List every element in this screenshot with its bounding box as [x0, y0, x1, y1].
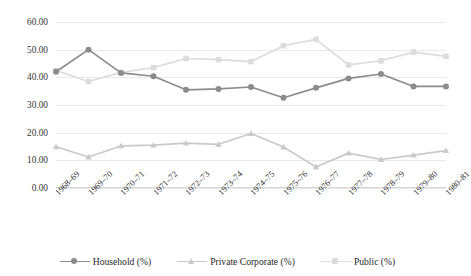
data-point [346, 62, 352, 68]
x-tick-label: 1980–81 [443, 169, 471, 197]
y-tick-label: 60.00 [27, 17, 48, 27]
legend-item[interactable]: Household (%) [60, 256, 151, 267]
y-tick-label: 50.00 [27, 45, 48, 55]
series-household [53, 47, 449, 101]
data-point [53, 69, 59, 75]
chart-legend: Household (%)Private Corporate (%)Public… [0, 250, 455, 272]
x-axis-tick-labels: 1968–691969–701970–711971–721972–731973–… [56, 190, 446, 248]
data-point [151, 65, 157, 71]
data-point [151, 73, 157, 79]
data-point [346, 75, 352, 81]
series-private-corporate [53, 130, 449, 169]
data-point [183, 56, 189, 62]
data-point [411, 49, 417, 55]
data-point [281, 95, 287, 101]
data-point [86, 79, 92, 85]
data-point [313, 85, 319, 91]
data-point [248, 84, 254, 90]
data-point [443, 83, 449, 89]
legend-item[interactable]: Private Corporate (%) [177, 256, 295, 267]
series-line [56, 134, 446, 167]
data-point [216, 86, 222, 92]
data-point [411, 83, 417, 89]
legend-label: Household (%) [93, 256, 151, 267]
legend-swatch-icon [60, 256, 90, 266]
data-point [443, 54, 449, 60]
data-point [281, 43, 287, 49]
y-tick-label: 10.00 [27, 155, 48, 165]
legend-label: Public (%) [354, 256, 395, 267]
data-point [313, 37, 319, 43]
data-point [183, 87, 189, 93]
data-point [248, 59, 254, 65]
data-point [86, 47, 92, 53]
data-point [378, 58, 384, 64]
plot-area [56, 22, 446, 188]
y-tick-label: 0.00 [32, 183, 48, 193]
y-tick-label: 20.00 [27, 128, 48, 138]
data-point [378, 71, 384, 77]
data-point [53, 144, 59, 150]
legend-swatch-icon [177, 256, 207, 266]
data-point [248, 130, 254, 136]
y-tick-label: 30.00 [27, 100, 48, 110]
data-point [216, 57, 222, 63]
data-point [118, 70, 124, 76]
y-tick-label: 40.00 [27, 72, 48, 82]
legend-swatch-icon [321, 256, 351, 266]
series-layer [56, 22, 446, 188]
legend-label: Private Corporate (%) [210, 256, 295, 267]
legend-item[interactable]: Public (%) [321, 256, 395, 267]
y-axis-tick-labels: 0.0010.0020.0030.0040.0050.0060.00 [0, 22, 52, 188]
